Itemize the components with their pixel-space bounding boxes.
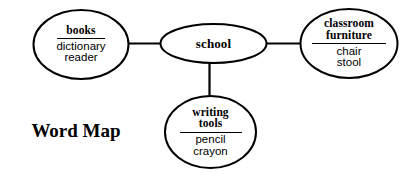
node-school: school bbox=[160, 24, 267, 63]
node-books: books dictionary reader bbox=[33, 10, 129, 79]
node-classroom-furniture: classroom furniture chair stool bbox=[300, 9, 398, 78]
node-classroom-furniture-heading-line-2: furniture bbox=[326, 30, 372, 42]
node-classroom-furniture-item-2: stool bbox=[337, 57, 361, 69]
node-books-heading: books bbox=[66, 25, 95, 37]
node-writing-tools-item-1: pencil bbox=[195, 134, 225, 146]
node-writing-tools: writing tools pencil crayon bbox=[165, 96, 256, 168]
node-classroom-furniture-underline bbox=[312, 43, 386, 44]
node-school-label: school bbox=[196, 37, 231, 50]
node-writing-tools-item-2: crayon bbox=[193, 146, 228, 158]
diagram-title: Word Map bbox=[20, 120, 132, 142]
node-books-item-2: reader bbox=[64, 52, 97, 64]
word-map-diagram: books dictionary reader school classroom… bbox=[0, 0, 409, 178]
node-books-underline bbox=[57, 38, 105, 39]
node-writing-tools-heading-line-2: tools bbox=[199, 118, 223, 130]
